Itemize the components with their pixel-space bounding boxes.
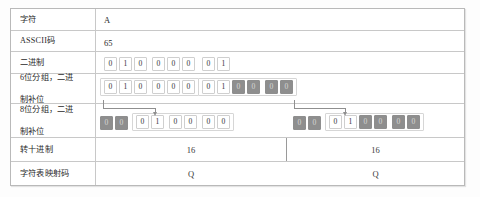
eightbit-group-2-pad: 00 bbox=[291, 114, 323, 132]
bit-cell: 0 bbox=[134, 80, 147, 94]
row-label-binary: 二进制 bbox=[11, 52, 96, 73]
table-row-character: 字符 A bbox=[11, 9, 464, 31]
row-label-character: 字符 bbox=[11, 9, 96, 30]
bit-cell: 1 bbox=[217, 80, 230, 94]
mapping-value-right: Q bbox=[287, 169, 464, 179]
table-row-8bit: 8位分组，二进 制补位 00 010000 00 010000 bbox=[11, 104, 464, 138]
row-value-ascii: 65 bbox=[96, 31, 464, 51]
row-value-mapping: Q Q bbox=[96, 162, 464, 185]
bit-cell: 0 bbox=[265, 80, 278, 94]
row-label-ascii: ASSCII码 bbox=[11, 31, 96, 51]
bit-cell: 0 bbox=[136, 115, 149, 129]
row-label-8bit-line1: 8位分组，二进 bbox=[20, 104, 74, 115]
row-value-decimal: 16 16 bbox=[96, 138, 464, 161]
bit-cell: 0 bbox=[359, 115, 372, 129]
bit-cell: 0 bbox=[152, 57, 165, 71]
row-label-decimal: 转十进制 bbox=[11, 138, 96, 161]
table-row-ascii: ASSCII码 65 bbox=[11, 31, 464, 52]
bit-cell: 0 bbox=[202, 57, 215, 71]
mapping-value-left: Q bbox=[96, 169, 286, 179]
bit-cell: 0 bbox=[100, 116, 113, 130]
bit-cell: 0 bbox=[104, 80, 117, 94]
bit-cell: 0 bbox=[293, 116, 306, 130]
row-label-8bit-text: 8位分组，二进 制补位 bbox=[20, 104, 74, 137]
sixbit-group-2: 010000 bbox=[198, 78, 297, 96]
bit-cell: 0 bbox=[329, 115, 342, 129]
row-value-6bit: 010000 010000 bbox=[96, 74, 464, 103]
sixbit-group-1: 010000 bbox=[100, 78, 199, 96]
row-label-mapping: 字符表映射码 bbox=[11, 162, 96, 185]
bit-cell: 0 bbox=[104, 57, 117, 71]
row-label-character-text: 字符 bbox=[20, 14, 36, 25]
encoding-table: 字符 A ASSCII码 65 二进制 010000 01 bbox=[10, 8, 465, 186]
row-label-6bit-line1: 6位分组，二进 bbox=[20, 72, 74, 83]
bit-cell: 0 bbox=[167, 57, 180, 71]
binary-group-1: 010000 bbox=[102, 55, 197, 73]
table-row-binary: 二进制 010000 01 bbox=[11, 52, 464, 74]
row-label-mapping-text: 字符表映射码 bbox=[20, 168, 69, 179]
bit-cell: 1 bbox=[344, 115, 357, 129]
table-row-6bit: 6位分组，二进 制补位 010000 010000 bbox=[11, 74, 464, 104]
bit-cell: 0 bbox=[308, 116, 321, 130]
bit-cell: 0 bbox=[184, 115, 197, 129]
bit-cell: 0 bbox=[152, 80, 165, 94]
bit-cell: 0 bbox=[232, 80, 245, 94]
row-label-6bit-text: 6位分组，二进 制补位 bbox=[20, 72, 74, 105]
table-row-mapping: 字符表映射码 Q Q bbox=[11, 162, 464, 185]
bit-cell: 0 bbox=[169, 115, 182, 129]
row-label-decimal-text: 转十进制 bbox=[20, 144, 53, 155]
connector-arrow-right bbox=[286, 104, 466, 116]
bit-cell: 1 bbox=[151, 115, 164, 129]
page-root: 字符 A ASSCII码 65 二进制 010000 01 bbox=[0, 0, 480, 197]
sixbit-bit-row: 010000 010000 bbox=[96, 74, 464, 103]
bit-cell: 0 bbox=[202, 115, 215, 129]
row-value-character: A bbox=[96, 9, 464, 30]
bit-cell: 1 bbox=[119, 57, 132, 71]
character-value: A bbox=[104, 15, 110, 25]
connector-arrow-left bbox=[96, 104, 286, 116]
binary-bit-row: 010000 01 bbox=[96, 52, 464, 73]
bit-cell: 1 bbox=[217, 57, 230, 71]
bit-cell: 0 bbox=[167, 80, 180, 94]
bit-cell: 0 bbox=[280, 80, 293, 94]
decimal-value-right: 16 bbox=[287, 145, 464, 155]
row-value-8bit: 00 010000 00 010000 bbox=[96, 104, 464, 137]
row-label-ascii-text: ASSCII码 bbox=[20, 35, 55, 46]
bit-cell: 0 bbox=[392, 115, 405, 129]
bit-cell: 0 bbox=[182, 57, 195, 71]
bit-cell: 0 bbox=[134, 57, 147, 71]
bit-cell: 0 bbox=[182, 80, 195, 94]
bit-cell: 0 bbox=[407, 115, 420, 129]
bit-cell: 0 bbox=[115, 116, 128, 130]
bit-cell: 0 bbox=[217, 115, 230, 129]
ascii-value: 65 bbox=[104, 38, 113, 48]
row-label-binary-text: 二进制 bbox=[20, 57, 45, 68]
bit-cell: 0 bbox=[202, 80, 215, 94]
bit-cell: 0 bbox=[247, 80, 260, 94]
row-value-binary: 010000 01 bbox=[96, 52, 464, 73]
eightbit-group-1-pad: 00 bbox=[98, 114, 130, 132]
row-label-6bit: 6位分组，二进 制补位 bbox=[11, 74, 96, 103]
row-label-8bit: 8位分组，二进 制补位 bbox=[11, 104, 96, 137]
bit-cell: 1 bbox=[119, 80, 132, 94]
decimal-value-left: 16 bbox=[96, 145, 286, 155]
bit-cell: 0 bbox=[374, 115, 387, 129]
binary-group-2: 01 bbox=[200, 55, 232, 73]
row-label-8bit-line2: 制补位 bbox=[20, 126, 74, 137]
table-row-decimal: 转十进制 16 16 bbox=[11, 138, 464, 162]
